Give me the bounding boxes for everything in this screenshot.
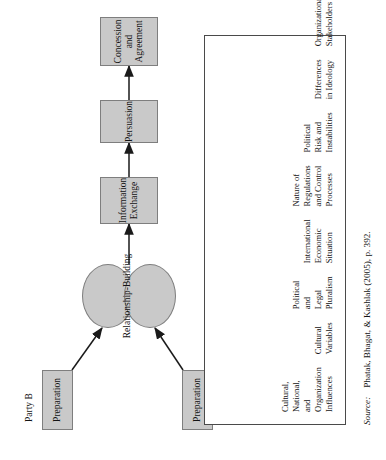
party-b-label: Party B	[24, 393, 34, 422]
party-b-preparation-box: Preparation	[42, 370, 73, 430]
source-citation: Phatak, Bhagat, & Kashlak (2005), p. 392…	[362, 231, 372, 387]
relationship-building-label: Relationship-Building	[122, 235, 132, 357]
factor-item: International Economic Situation	[302, 219, 335, 263]
arrow-partya-to-hub	[155, 328, 183, 370]
factor-item: Cultural, National, and Organization Inf…	[280, 367, 335, 412]
arrow-partyb-to-hub	[72, 328, 102, 370]
factor-item: Organizational Stakeholders	[313, 0, 335, 46]
stage-box-concession-and-agreement: Concession and Agreement	[100, 17, 158, 66]
factor-item: Political and Legal Pluralism	[291, 276, 335, 309]
stage-box-information-exchange: Information Exchange	[100, 177, 158, 224]
factor-item: Political Risk and Instabilities	[302, 112, 335, 152]
factor-item: Cultural Variables	[313, 322, 335, 354]
figure-canvas: Party B Preparation Party A Preparation …	[0, 0, 386, 460]
source-line: Source:Phatak, Bhagat, & Kashlak (2005),…	[362, 231, 372, 425]
influencing-factors-box: Cultural, National, and Organization Inf…	[204, 35, 346, 425]
factor-item: Nature of Regulations and Control Proces…	[291, 165, 335, 206]
stage-box-persuasion: Persuasion	[100, 100, 158, 143]
source-label: Source:	[362, 397, 372, 425]
factor-item: Differences in Ideology	[313, 59, 335, 99]
